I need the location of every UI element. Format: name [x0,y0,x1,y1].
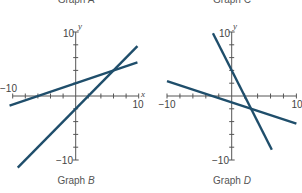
caption-graph-a: Graph A [58,0,95,5]
plot-line-2 [18,46,138,168]
plot-line-1 [10,62,138,105]
figure: Graph A Graph C 10 y −10 −10 10 x Graph … [0,0,302,193]
graph-b-y-max-label: 10 [63,28,75,39]
graph-d-y-min-label: −10 [212,155,229,166]
graph-b: 10 y −10 −10 10 x Graph B [0,21,145,186]
graph-b-axes [13,32,139,160]
plot-line-2 [213,33,272,149]
caption-graph-b: Graph B [57,175,95,186]
graph-d-y-axis-label: y [232,21,237,31]
graph-b-y-min-label: −10 [56,155,73,166]
graph-b-y-axis-label: y [77,21,82,31]
graph-b-x-min-label: −10 [0,83,17,94]
graph-b-lines [10,46,138,168]
graph-d: 10 y −10 −10 10 Graph D [159,21,302,186]
graph-b-x-max-label: 10 [132,99,144,110]
graph-d-x-max-label: 10 [291,99,302,110]
caption-graph-d: Graph D [213,175,251,186]
graph-d-y-max-label: 10 [219,28,231,39]
graph-d-x-min-label: −10 [159,99,176,110]
graph-b-x-axis-label: x [140,89,145,99]
graph-d-axes [167,32,296,160]
caption-graph-c: Graph C [213,0,251,5]
